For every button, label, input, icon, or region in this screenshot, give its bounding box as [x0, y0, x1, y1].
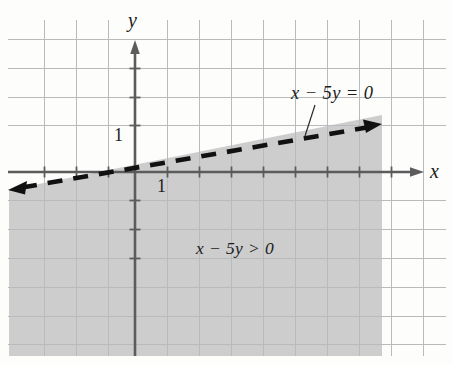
- graph-canvas: [0, 0, 453, 365]
- shaded-region: [9, 115, 382, 356]
- region-inequality-label: x − 5y > 0: [196, 240, 274, 258]
- x-axis-arrowhead: [410, 167, 424, 177]
- inequality-graph-figure: x − 5y = 0 x − 5y > 0 y x 1 1: [0, 0, 453, 365]
- boundary-equation-label: x − 5y = 0: [291, 84, 373, 103]
- x-axis-tick-label-1: 1: [157, 177, 166, 195]
- y-axis-tick-label-1: 1: [114, 126, 123, 144]
- y-axis-label: y: [128, 10, 137, 30]
- y-axis-arrowhead: [130, 40, 140, 54]
- x-axis-label: x: [430, 161, 439, 181]
